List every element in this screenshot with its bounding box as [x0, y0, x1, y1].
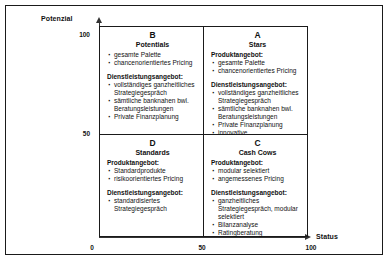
quadrant-a-name: Stars [211, 40, 304, 50]
list-item: modular selektiert [211, 167, 304, 175]
list-item: chancenorientiertes Pricing [211, 67, 304, 75]
list-item: gesamte Palette [211, 59, 304, 67]
x-axis-tick-0: 0 [84, 244, 100, 251]
y-axis-tick-50: 50 [68, 130, 90, 137]
y-axis-title: Potenzial [41, 15, 73, 22]
quadrant-b-group-1-list: vollständiges ganzheitliches Strategiege… [107, 81, 198, 121]
quadrant-d-name: Standards [107, 148, 198, 158]
x-axis-tick-50: 50 [194, 244, 210, 251]
list-item: chancenorientiertes Pricing [107, 59, 198, 67]
list-item: sämtliche banknahen bwl. Beratungsleistu… [107, 97, 198, 113]
quadrant-c-group-1-list: ganzheitliches Strategiegespräch, modula… [211, 197, 304, 237]
quadrant-a-letter: A [211, 30, 304, 40]
portfolio-matrix: B Potentials gesamte Palette chancenorie… [99, 26, 308, 237]
quadrant-d-letter: D [107, 138, 198, 148]
list-item: vollständiges ganzheitliches Strategiege… [211, 89, 304, 105]
x-axis-title: Status [316, 233, 338, 240]
quadrant-d-group-1-list: standardisiertes Strategiegespräch [107, 197, 198, 213]
list-item: Bilanzanalyse [211, 221, 304, 229]
quadrant-b-name: Potentials [107, 40, 198, 50]
quadrant-b-group-1-heading: Dienstleistungsangebot: [107, 73, 198, 81]
quadrant-d-group-0-list: Standardprodukte risikoorientiertes Pric… [107, 167, 198, 183]
y-axis-tick-100: 100 [68, 31, 90, 38]
list-item: Private Finanzplanung [107, 113, 198, 121]
y-axis-arrow-icon [96, 17, 102, 23]
list-item: angemessenes Pricing [211, 175, 304, 183]
quadrant-c-letter: C [211, 138, 304, 148]
quadrant-a-group-1-heading: Dienstleistungsangebot: [211, 81, 304, 89]
quadrant-b-group-0-list: gesamte Palette chancenorientiertes Pric… [107, 51, 198, 67]
quadrant-c-name: Cash Cows [211, 148, 304, 158]
quadrant-d-group-1-heading: Dienstleistungsangebot: [107, 189, 198, 197]
list-item: innovative Beratungsleistungen [211, 129, 304, 134]
quadrant-d-group-0-heading: Produktangebot: [107, 159, 198, 167]
list-item: gesamte Palette [107, 51, 198, 59]
list-item: ganzheitliches Strategiegespräch, modula… [211, 197, 304, 221]
list-item: risikoorientiertes Pricing [107, 175, 198, 183]
quadrant-a-group-1-list: vollständiges ganzheitliches Strategiege… [211, 89, 304, 134]
x-axis-tick-100: 100 [302, 244, 320, 251]
list-item: sämtliche banknahen bwl. Beratungsleistu… [211, 105, 304, 121]
quadrant-b: B Potentials gesamte Palette chancenorie… [100, 27, 203, 134]
diagram-frame: Potenzial Status 100 50 0 50 100 B Poten… [5, 5, 383, 255]
list-item: standardisiertes Strategiegespräch [107, 197, 198, 213]
quadrant-b-letter: B [107, 30, 198, 40]
list-item: Private Finanzplanung [211, 121, 304, 129]
quadrant-c-group-1-heading: Dienstleistungsangebot: [211, 189, 304, 197]
list-item: Ratingberatung [211, 229, 304, 237]
list-item: Standardprodukte [107, 167, 198, 175]
quadrant-d: D Standards Produktangebot: Standardprod… [100, 135, 203, 238]
list-item: vollständiges ganzheitliches Strategiege… [107, 81, 198, 97]
quadrant-a-group-0-heading: Produktangebot: [211, 51, 304, 59]
quadrant-c-group-0-heading: Produktangebot: [211, 159, 304, 167]
quadrant-c: C Cash Cows Produktangebot: modular sele… [204, 135, 309, 238]
quadrant-a-group-0-list: gesamte Palette chancenorientiertes Pric… [211, 59, 304, 75]
quadrant-c-group-0-list: modular selektiert angemessenes Pricing [211, 167, 304, 183]
quadrant-a: A Stars Produktangebot: gesamte Palette … [204, 27, 309, 134]
